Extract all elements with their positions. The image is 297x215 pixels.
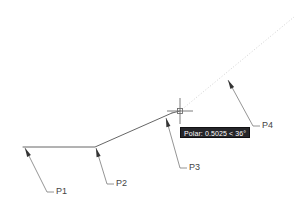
- polar-tracking-tooltip: Polar: 0.5025 < 36°: [180, 127, 250, 138]
- leader-p3: [166, 118, 187, 168]
- leader-arrowhead: [25, 148, 31, 157]
- leader-p2: [96, 148, 114, 184]
- point-label-p1: P1: [56, 187, 67, 196]
- leader-arrowhead: [96, 148, 101, 157]
- point-label-p3: P3: [189, 163, 200, 172]
- crosshair-cursor-icon[interactable]: [167, 98, 193, 124]
- point-label-p4: P4: [262, 121, 273, 130]
- cad-drawing-canvas[interactable]: Polar: 0.5025 < 36° P1P2P3P4: [0, 0, 297, 215]
- leader-p4: [228, 80, 260, 126]
- leader-p1: [25, 148, 54, 192]
- point-label-p2: P2: [116, 179, 127, 188]
- drawn-polyline[interactable]: [23, 113, 172, 147]
- drawing-surface[interactable]: [0, 0, 297, 215]
- leader-arrowhead: [228, 80, 234, 89]
- leader-arrowhead: [166, 118, 170, 127]
